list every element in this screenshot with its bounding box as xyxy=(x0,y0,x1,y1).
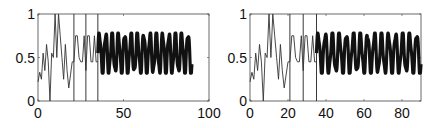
y-tick-label: 0.5 xyxy=(16,50,36,66)
y-tick-label: 1 xyxy=(239,6,247,22)
y-tick-label: 1 xyxy=(27,6,35,22)
chart-figure: 00.51050100 00.51020406080 xyxy=(0,0,441,128)
x-tick-label: 0 xyxy=(246,105,254,121)
series-line-transient xyxy=(38,14,98,101)
x-tick-label: 100 xyxy=(197,105,221,121)
series-line-steady-oscillation xyxy=(98,33,192,73)
x-tick-label: 0 xyxy=(34,105,42,121)
x-tick-label: 80 xyxy=(394,105,410,121)
right-panel: 00.51020406080 xyxy=(228,6,421,121)
x-tick-label: 60 xyxy=(356,105,372,121)
x-tick-label: 50 xyxy=(116,105,132,121)
left-panel: 00.51050100 xyxy=(16,6,221,121)
y-tick-label: 0.5 xyxy=(228,50,248,66)
series-line-steady-oscillation xyxy=(317,33,422,73)
x-tick-label: 20 xyxy=(280,105,296,121)
series-line-transient xyxy=(250,14,317,101)
x-tick-label: 40 xyxy=(318,105,334,121)
